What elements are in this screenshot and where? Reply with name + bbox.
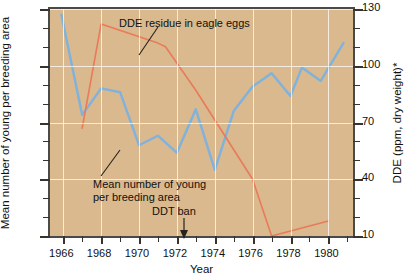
y-tick-left-major [40,9,50,11]
x-tick-minor [196,236,197,242]
y-tick-right-minor [353,85,360,86]
gridline-vertical [215,9,216,236]
y-axis-right-tick-label: 100 [362,58,380,70]
y-tick-right-minor [353,217,360,218]
y-axis-right-tick-label: 70 [362,115,374,127]
y-axis-left-title-wrap: Mean number of young per breeding area [14,7,15,238]
gridline-horizontal [50,9,353,10]
gridline-horizontal [50,66,353,67]
x-tick-major [328,236,330,244]
y-tick-left-major [40,66,50,68]
x-tick-major [177,236,179,244]
y-tick-right-minor [353,47,360,48]
gridline-vertical [291,9,292,236]
x-axis-tick-label: 1966 [49,247,73,259]
y-tick-left-major [40,179,50,181]
y-tick-left-major [40,123,50,125]
y-tick-right-minor [353,160,360,161]
eagle-dde-chart: Mean number of young per breeding area D… [0,0,409,279]
x-tick-minor [309,236,310,242]
gridline-vertical [253,9,254,236]
series-line-young [61,15,343,170]
y-tick-left-minor [43,28,50,29]
x-tick-major [101,236,103,244]
mean-annotation-line2: per breeding area [93,191,206,204]
x-axis-tick-label: 1968 [87,247,111,259]
x-tick-minor [158,236,159,242]
y-tick-left-minor [43,198,50,199]
x-axis-title: Year [48,263,355,275]
y-tick-right-minor [353,104,360,105]
x-tick-major [291,236,293,244]
y-axis-left-title: Mean number of young per breeding area [0,16,11,228]
x-tick-minor [347,236,348,242]
y-axis-right-tick-label: 10 [362,228,374,240]
y-tick-right-minor [353,28,360,29]
y-axis-right-title: DDE (ppm, dry weight)* [391,62,403,183]
x-tick-minor [120,236,121,242]
gridline-vertical [328,9,329,236]
x-axis-tick-label: 1976 [238,247,262,259]
y-tick-right-minor [353,141,360,142]
y-tick-left-minor [43,217,50,218]
y-tick-left-minor [43,141,50,142]
y-axis-right-title-wrap: DDE (ppm, dry weight)* [397,7,398,238]
y-axis-right-tick-label: 130 [362,1,380,13]
y-tick-right-major [353,123,363,125]
x-axis-tick-label: 1974 [201,247,225,259]
x-tick-minor [234,236,235,242]
y-tick-left-major [40,236,50,238]
y-tick-right-major [353,9,363,11]
y-tick-left-minor [43,85,50,86]
y-tick-right-major [353,236,363,238]
y-tick-right-major [353,66,363,68]
x-axis-tick-label: 1970 [125,247,149,259]
x-axis-tick-label: 1972 [163,247,187,259]
gridline-vertical [63,9,64,236]
y-axis-right-tick-label: 40 [362,171,374,183]
dde-annotation: DDE residue in eagle eggs [119,17,250,30]
x-tick-minor [272,236,273,242]
x-tick-major [139,236,141,244]
gridline-horizontal [50,123,353,124]
y-tick-right-major [353,179,363,181]
y-tick-left-minor [43,104,50,105]
y-tick-left-minor [43,47,50,48]
x-tick-minor [82,236,83,242]
x-axis-tick-label: 1978 [276,247,300,259]
mean-annotation: Mean number of young per breeding area [93,178,206,204]
y-tick-left-minor [43,160,50,161]
y-tick-right-minor [353,198,360,199]
x-tick-major [253,236,255,244]
ddt-ban-annotation: DDT ban [152,205,196,218]
mean-annotation-line1: Mean number of young [93,178,206,191]
x-axis-tick-label: 1980 [314,247,338,259]
x-tick-major [63,236,65,244]
x-tick-major [215,236,217,244]
